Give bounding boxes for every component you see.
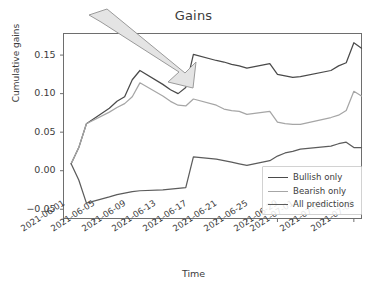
callout-arrow	[89, 9, 196, 88]
legend-label: Bullish only	[293, 171, 342, 184]
y-tick-label: 0.10	[16, 87, 56, 98]
legend-swatch	[268, 204, 288, 205]
legend-label: All predictions	[293, 198, 354, 211]
legend-swatch	[268, 191, 288, 192]
chart-figure: Gains Cumulative gains Time −0.050.000.0…	[0, 0, 387, 287]
legend-label: Bearish only	[293, 185, 346, 198]
y-tick-marks	[60, 55, 64, 209]
y-tick-label: 0.05	[16, 126, 56, 137]
annotation-layer	[89, 9, 196, 88]
series-line	[71, 43, 361, 164]
series-line	[71, 83, 361, 164]
legend-item[interactable]: All predictions	[268, 198, 360, 211]
plot-canvas	[0, 0, 387, 287]
y-tick-label: 0.00	[16, 164, 56, 175]
legend-swatch	[268, 177, 288, 178]
legend-item[interactable]: Bearish only	[268, 185, 360, 198]
chart-legend[interactable]: Bullish onlyBearish onlyAll predictions	[262, 166, 362, 215]
legend-item[interactable]: Bullish only	[268, 171, 360, 184]
y-tick-label: 0.15	[16, 49, 56, 60]
